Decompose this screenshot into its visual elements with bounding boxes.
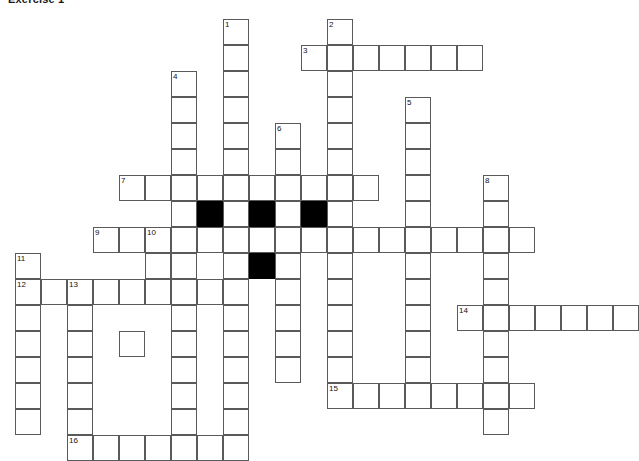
grid-cell[interactable]	[327, 71, 353, 97]
grid-cell[interactable]	[353, 175, 379, 201]
grid-cell[interactable]	[223, 97, 249, 123]
grid-cell[interactable]	[171, 227, 197, 253]
grid-cell[interactable]	[457, 45, 483, 71]
grid-cell[interactable]	[327, 357, 353, 383]
grid-cell[interactable]	[275, 331, 301, 357]
grid-cell[interactable]	[223, 45, 249, 71]
grid-cell[interactable]	[483, 227, 509, 253]
grid-cell-numbered[interactable]: 13	[67, 279, 93, 305]
grid-cell[interactable]	[327, 201, 353, 227]
grid-cell[interactable]	[119, 331, 145, 357]
grid-cell[interactable]	[171, 435, 197, 461]
grid-cell[interactable]	[483, 279, 509, 305]
grid-cell[interactable]	[171, 305, 197, 331]
grid-cell[interactable]	[67, 357, 93, 383]
grid-cell[interactable]	[509, 227, 535, 253]
grid-cell[interactable]	[275, 227, 301, 253]
grid-cell[interactable]	[145, 253, 171, 279]
grid-cell[interactable]	[171, 331, 197, 357]
grid-cell[interactable]	[379, 383, 405, 409]
grid-cell[interactable]	[405, 175, 431, 201]
grid-cell[interactable]	[587, 305, 613, 331]
grid-cell[interactable]	[431, 383, 457, 409]
grid-cell[interactable]	[613, 305, 639, 331]
grid-cell[interactable]	[171, 253, 197, 279]
grid-cell[interactable]	[275, 305, 301, 331]
grid-cell[interactable]	[67, 305, 93, 331]
grid-cell[interactable]	[457, 227, 483, 253]
grid-cell[interactable]	[223, 435, 249, 461]
grid-cell[interactable]	[223, 331, 249, 357]
grid-cell[interactable]	[67, 409, 93, 435]
grid-cell[interactable]	[327, 123, 353, 149]
grid-cell[interactable]	[483, 305, 509, 331]
grid-cell[interactable]	[301, 175, 327, 201]
grid-cell[interactable]	[353, 383, 379, 409]
grid-cell[interactable]	[327, 149, 353, 175]
grid-cell[interactable]	[223, 123, 249, 149]
grid-cell-numbered[interactable]: 16	[67, 435, 93, 461]
grid-cell[interactable]	[327, 175, 353, 201]
grid-cell[interactable]	[431, 227, 457, 253]
grid-cell[interactable]	[483, 201, 509, 227]
grid-cell[interactable]	[405, 331, 431, 357]
grid-cell[interactable]	[93, 279, 119, 305]
grid-cell[interactable]	[145, 279, 171, 305]
grid-cell[interactable]	[483, 409, 509, 435]
grid-cell[interactable]	[275, 175, 301, 201]
grid-cell[interactable]	[327, 45, 353, 71]
grid-cell[interactable]	[535, 305, 561, 331]
grid-cell[interactable]	[327, 227, 353, 253]
grid-cell[interactable]	[327, 331, 353, 357]
grid-cell[interactable]	[223, 149, 249, 175]
grid-cell[interactable]	[93, 435, 119, 461]
grid-cell[interactable]	[223, 383, 249, 409]
grid-cell[interactable]	[171, 409, 197, 435]
grid-cell[interactable]	[223, 253, 249, 279]
grid-cell-numbered[interactable]: 8	[483, 175, 509, 201]
grid-cell[interactable]	[483, 357, 509, 383]
grid-cell[interactable]	[67, 331, 93, 357]
grid-cell[interactable]	[405, 201, 431, 227]
grid-cell-numbered[interactable]: 9	[93, 227, 119, 253]
grid-cell-numbered[interactable]: 3	[301, 45, 327, 71]
grid-cell-numbered[interactable]: 10	[145, 227, 171, 253]
grid-cell[interactable]	[223, 357, 249, 383]
grid-cell[interactable]	[405, 279, 431, 305]
grid-cell[interactable]	[405, 149, 431, 175]
grid-cell-numbered[interactable]: 14	[457, 305, 483, 331]
grid-cell[interactable]	[405, 253, 431, 279]
grid-cell[interactable]	[171, 383, 197, 409]
grid-cell[interactable]	[119, 227, 145, 253]
grid-cell[interactable]	[171, 279, 197, 305]
grid-cell[interactable]	[353, 227, 379, 253]
grid-cell[interactable]	[509, 383, 535, 409]
grid-cell[interactable]	[197, 175, 223, 201]
grid-cell[interactable]	[249, 227, 275, 253]
grid-cell[interactable]	[119, 279, 145, 305]
grid-cell[interactable]	[379, 227, 405, 253]
grid-cell[interactable]	[275, 149, 301, 175]
grid-cell[interactable]	[327, 97, 353, 123]
grid-cell[interactable]	[405, 123, 431, 149]
grid-cell[interactable]	[275, 279, 301, 305]
grid-cell-numbered[interactable]: 11	[15, 253, 41, 279]
grid-cell[interactable]	[405, 45, 431, 71]
grid-cell[interactable]	[197, 279, 223, 305]
grid-cell[interactable]	[483, 253, 509, 279]
grid-cell[interactable]	[145, 435, 171, 461]
grid-cell[interactable]	[223, 71, 249, 97]
grid-cell[interactable]	[275, 357, 301, 383]
grid-cell[interactable]	[275, 253, 301, 279]
grid-cell[interactable]	[15, 357, 41, 383]
grid-cell[interactable]	[457, 383, 483, 409]
grid-cell[interactable]	[509, 305, 535, 331]
grid-cell-numbered[interactable]: 2	[327, 19, 353, 45]
grid-cell[interactable]	[327, 253, 353, 279]
grid-cell[interactable]	[15, 383, 41, 409]
grid-cell[interactable]	[171, 149, 197, 175]
grid-cell[interactable]	[171, 97, 197, 123]
grid-cell[interactable]	[301, 227, 327, 253]
grid-cell[interactable]	[223, 409, 249, 435]
